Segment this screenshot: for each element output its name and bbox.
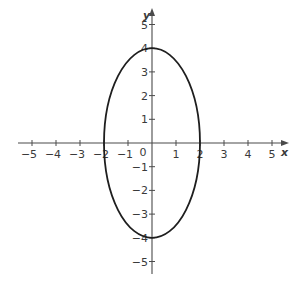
y-tick-label: 3: [141, 66, 148, 79]
y-tick-label: 1: [141, 113, 148, 126]
y-tick-label: −1: [132, 161, 148, 174]
y-tick-label: −2: [132, 184, 148, 197]
y-tick-label: 2: [141, 90, 148, 103]
ellipse-plot: −5−4−3−2−1012345−5−4−3−2−112345 x y: [0, 0, 302, 282]
y-tick-label: −3: [132, 208, 148, 221]
x-tick-label: −5: [21, 148, 37, 161]
x-tick-label: −1: [117, 148, 133, 161]
x-tick-label: 4: [245, 148, 252, 161]
y-tick-label: −5: [132, 256, 148, 269]
x-tick-label: −3: [69, 148, 85, 161]
y-axis-label: y: [143, 9, 151, 22]
x-axis-label: x: [280, 146, 289, 159]
x-tick-label: 5: [269, 148, 276, 161]
x-tick-label: 1: [173, 148, 180, 161]
origin-label: 0: [140, 146, 147, 159]
x-tick-label: −2: [93, 148, 109, 161]
x-tick-label: −4: [45, 148, 61, 161]
x-tick-label: 3: [221, 148, 228, 161]
